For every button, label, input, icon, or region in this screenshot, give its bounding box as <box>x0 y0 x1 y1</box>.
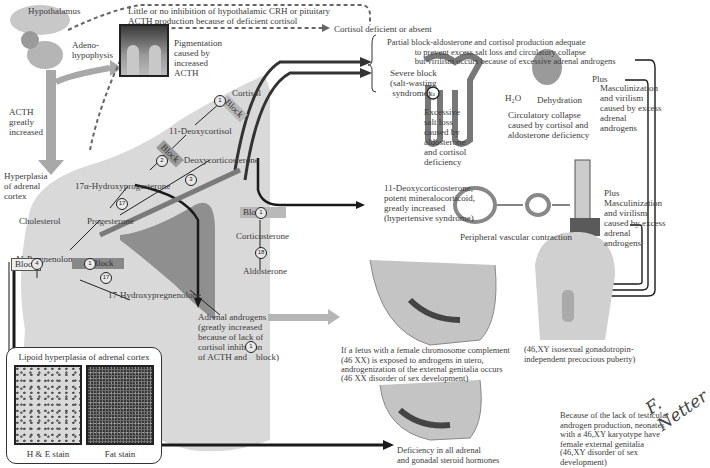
fat-stain-caption: Fat stain <box>86 449 154 459</box>
enzyme-circle-1: 1 <box>214 95 226 107</box>
enzyme-circle-1b: 1 <box>255 207 267 219</box>
steroid-corticosterone: Corticosterone <box>236 231 289 241</box>
pigmentation-label: Pigmentation caused by increased ACTH <box>174 38 222 78</box>
panel-title: Lipoid hyperplasia of adrenal cortex <box>7 352 161 362</box>
he-stain-image <box>14 365 82 445</box>
enzyme-circle-21: 3 <box>185 174 197 186</box>
masculinization-label-2: Masculinization and virilism caused by e… <box>604 198 665 248</box>
salt-loss-label: Excessive salt loss caused by aldosteron… <box>424 107 466 167</box>
doc-increase-label: 11-Deoxycorticosterone, potent mineraloc… <box>384 183 475 223</box>
enzyme-circle-3: 1 <box>84 258 96 270</box>
plus-label-2: Plus <box>604 188 620 198</box>
acth-label: ACTH greatly increased <box>9 107 43 137</box>
steroid-17oh-progesterone: 17α-Hydroxyprogesterone <box>75 181 170 191</box>
enzyme-circle-17b: 17 <box>100 272 112 284</box>
xy-dsd-label: (46,XY disorder of sex development) <box>560 448 638 467</box>
steroid-17oh-pregnenolone: 17-Hydroxypregnenolone <box>108 290 201 300</box>
pigmentation-image <box>119 24 169 77</box>
h2o-label: H₂O <box>505 93 521 103</box>
steroid-cholesterol: Cholesterol <box>19 216 61 226</box>
male-puberty-label: (46,XY isosexual gonadotropin- independe… <box>524 345 635 364</box>
deficiency-all-label: Deficiency in all adrenal and gonadal st… <box>397 446 499 465</box>
enzyme-circle-2: 2 <box>156 155 168 167</box>
he-stain-caption: H & E stain <box>14 449 82 459</box>
steroid-cortisol: Cortisol <box>232 88 261 98</box>
vascular-contraction-label: Peripheral vascular contraction <box>460 232 572 242</box>
enzyme-circle-17: 17 <box>116 198 128 210</box>
partial-block-label: Partial block-aldosterone and cortisol p… <box>387 38 615 67</box>
fat-stain-image <box>86 365 154 445</box>
hypothalamus-label: Hypothalamus <box>28 6 81 16</box>
lipoid-hyperplasia-panel: Lipoid hyperplasia of adrenal cortex H &… <box>6 347 162 464</box>
enzyme-circle-18: 18 <box>255 247 267 259</box>
enzyme-circle-4: 4 <box>31 258 43 270</box>
female-fetus-label: If a fetus with a female chromosome comp… <box>341 346 510 375</box>
adenohypophysis-label: Adeno- hypophysis <box>72 40 113 60</box>
na-label: Na <box>428 89 435 99</box>
steroid-11-deoxycortisol: 11-Deoxycortisol <box>169 126 232 136</box>
block-tag-3b-hsd: Block <box>72 258 124 269</box>
steroid-progesterone: Progesterone <box>87 216 134 226</box>
enzyme-circle-3b: 1 <box>245 341 257 353</box>
hyperplasia-label: Hyperplasia of adrenal cortex <box>4 171 47 201</box>
female-dsd-label: (46 XX disorder of sex development) <box>341 374 468 384</box>
circulatory-collapse-label: Circulatory collapse caused by cortisol … <box>508 110 589 140</box>
steroid-11-deoxycorticosterone: 11-Deoxycorticosterone <box>172 155 259 165</box>
dehydration-label: Dehydration <box>537 95 582 105</box>
steroid-aldosterone: Aldosterone <box>243 266 287 276</box>
feedback-note: Little or no inhibition of hypothalamic … <box>128 6 330 26</box>
adrenal-androgens-label: Adrenal androgens (greatly increased bec… <box>198 312 279 362</box>
masculinization-label-1: Masculinization and virilism caused by e… <box>600 83 661 133</box>
cortisol-deficient-label: Cortisol deficient or absent <box>334 24 432 34</box>
